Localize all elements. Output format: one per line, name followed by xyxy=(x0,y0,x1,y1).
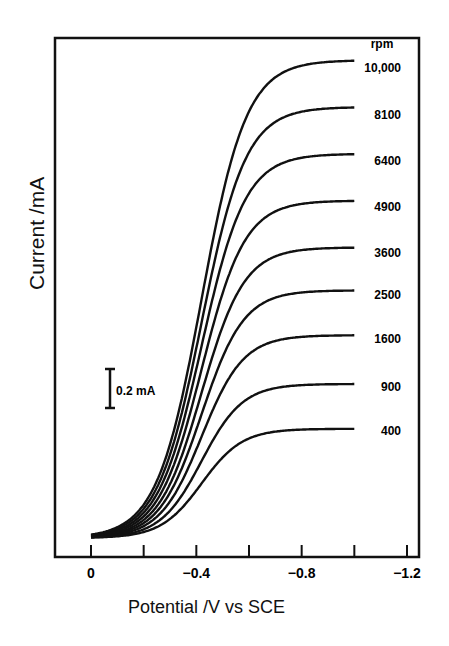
curve-labels: 10,000810064004900360025001600900400 xyxy=(364,61,401,438)
x-tick-label: 0 xyxy=(87,565,95,581)
curve-8100 xyxy=(91,108,354,536)
x-axis-ticks xyxy=(91,545,407,557)
x-tick-label: −0.4 xyxy=(183,565,211,581)
y-axis-label: Current /mA xyxy=(25,177,49,290)
x-tick-labels: 0−0.4−0.8−1.2 xyxy=(87,565,421,581)
curve-label: 400 xyxy=(381,424,401,438)
scale-bar: 0.2 mA xyxy=(105,369,156,408)
curve-label: 10,000 xyxy=(364,61,401,75)
x-tick-label: −0.8 xyxy=(288,565,316,581)
curve-label: 900 xyxy=(381,380,401,394)
curves xyxy=(91,61,354,538)
curve-label: 6400 xyxy=(374,154,401,168)
curve-10000 xyxy=(91,61,354,535)
curve-1600 xyxy=(91,335,354,537)
curve-label: 8100 xyxy=(374,108,401,122)
x-tick-label: −1.2 xyxy=(393,565,421,581)
curve-6400 xyxy=(91,154,354,535)
curve-900 xyxy=(91,384,354,537)
curve-label: 1600 xyxy=(374,332,401,346)
curve-label: 2500 xyxy=(374,288,401,302)
curve-4900 xyxy=(91,201,354,536)
legend-title: rpm xyxy=(371,37,394,51)
chart-canvas: 10,000810064004900360025001600900400 0−0… xyxy=(0,0,449,646)
x-axis-label: Potential /V vs SCE xyxy=(128,597,285,618)
plot-frame xyxy=(55,38,419,557)
scale-bar-label: 0.2 mA xyxy=(116,384,156,398)
curve-label: 3600 xyxy=(374,246,401,260)
curve-label: 4900 xyxy=(374,200,401,214)
